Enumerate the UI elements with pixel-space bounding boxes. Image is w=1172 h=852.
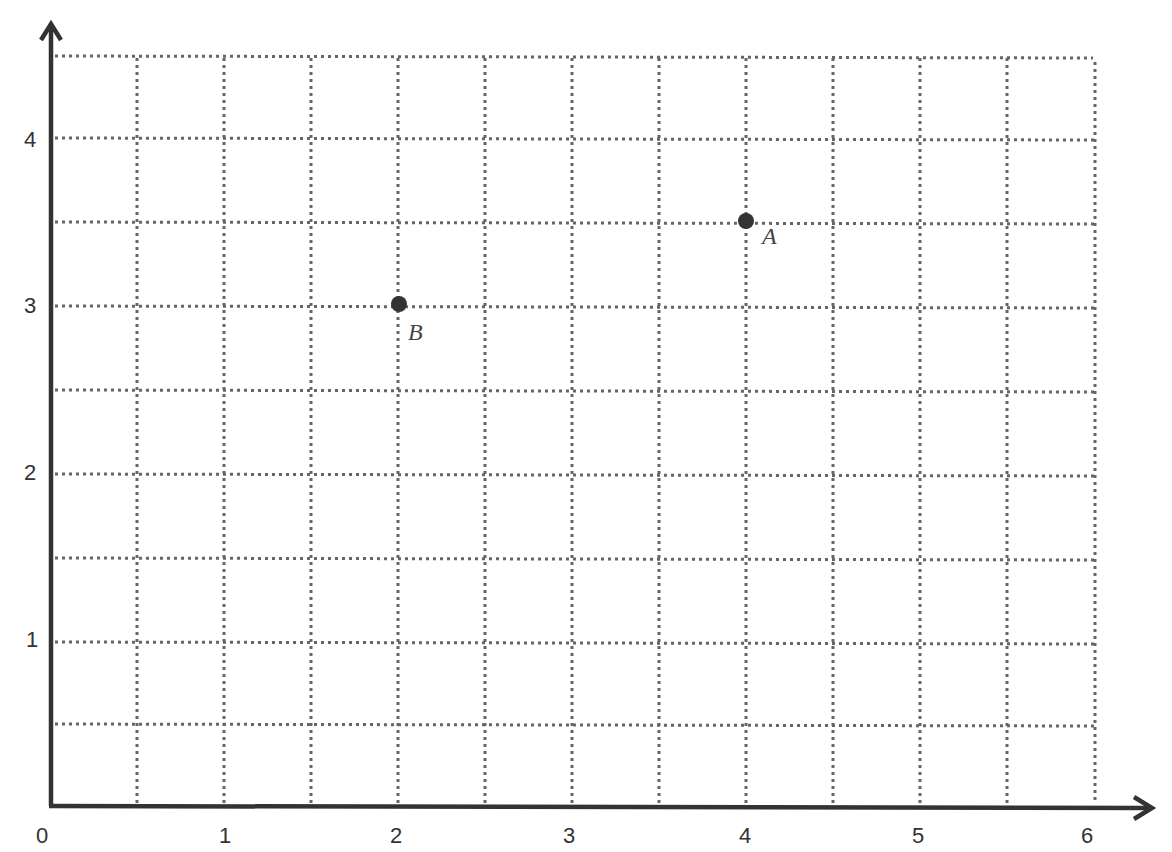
y-axis <box>41 24 61 806</box>
grid-vertical-lines <box>137 58 1095 804</box>
svg-text:3: 3 <box>563 823 575 848</box>
svg-text:1: 1 <box>219 823 231 848</box>
svg-text:A: A <box>760 223 777 249</box>
x-tick-labels: 0 1 2 3 4 5 6 <box>36 823 1093 848</box>
x-axis <box>49 797 1152 819</box>
point-a: A <box>738 213 777 249</box>
svg-text:2: 2 <box>390 823 402 848</box>
svg-text:4: 4 <box>24 127 36 152</box>
svg-text:4: 4 <box>739 823 751 848</box>
svg-text:0: 0 <box>36 823 48 848</box>
svg-text:B: B <box>408 319 423 345</box>
grid-horizontal-lines <box>55 56 1095 726</box>
y-tick-labels: 4 3 2 1 <box>24 127 38 652</box>
coordinate-plane: 0 1 2 3 4 5 6 4 3 2 1 A B <box>0 0 1172 852</box>
svg-text:6: 6 <box>1081 823 1093 848</box>
svg-text:5: 5 <box>912 823 924 848</box>
point-b: B <box>391 296 423 345</box>
svg-text:3: 3 <box>24 293 36 318</box>
svg-text:2: 2 <box>24 460 36 485</box>
svg-text:1: 1 <box>26 627 38 652</box>
